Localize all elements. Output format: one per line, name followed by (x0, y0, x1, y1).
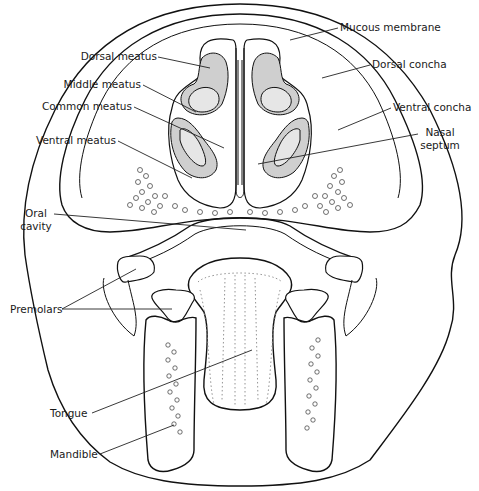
label-premolars: Premolars (10, 303, 63, 316)
left-cheek-fold (103, 278, 136, 336)
label-tongue: Tongue (50, 407, 88, 420)
anatomy-diagram: Dorsal meatus Middle meatus Common meatu… (0, 0, 479, 491)
spongy-bone-cells (128, 168, 353, 216)
label-mandible: Mandible (50, 448, 98, 461)
label-nasal-septum: Nasal septum (418, 126, 462, 152)
label-dorsal-meatus: Dorsal meatus (80, 50, 157, 63)
tongue (188, 258, 291, 410)
label-nasal-septum-line1: Nasal (418, 126, 462, 139)
head-outline (24, 4, 462, 486)
mandible-bone-cells (166, 338, 320, 434)
label-oral-cavity-line1: Oral (18, 207, 54, 220)
label-middle-meatus: Middle meatus (50, 78, 141, 91)
nasal-region-outline (60, 14, 423, 232)
right-cheek-fold (344, 278, 377, 336)
nasal-septum (236, 48, 244, 198)
label-oral-cavity-line2: cavity (18, 220, 54, 233)
label-common-meatus: Common meatus (30, 100, 132, 113)
label-nasal-septum-line2: septum (418, 139, 462, 152)
label-oral-cavity: Oral cavity (18, 207, 54, 233)
label-mucous-membrane: Mucous membrane (340, 21, 441, 34)
right-upper-premolar (326, 256, 363, 282)
label-ventral-meatus: Ventral meatus (20, 134, 116, 147)
label-ventral-concha: Ventral concha (393, 101, 471, 114)
hard-palate (120, 218, 360, 260)
label-dorsal-concha: Dorsal concha (372, 58, 447, 71)
